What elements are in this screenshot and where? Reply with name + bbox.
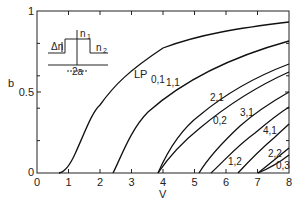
inset-n2-sub: 2 [103, 47, 107, 54]
y-tick-0: 0 [28, 166, 34, 178]
curves [59, 22, 289, 173]
inset-width: 2a [72, 66, 84, 77]
chart: 0 1 2 3 4 5 6 7 8 0 0.5 1 b V LP 0,1 1,1… [0, 0, 297, 200]
curve-lp01 [59, 22, 289, 173]
label-lp12: 1,2 [228, 156, 242, 167]
label-lp02: 0,2 [213, 115, 227, 126]
x-tick-2: 2 [97, 176, 103, 188]
inset-n1-sub: 1 [87, 33, 91, 40]
x-axis-label: V [159, 188, 167, 200]
y-tick-1: 1 [28, 5, 34, 17]
x-tick-6: 6 [223, 176, 229, 188]
x-tick-3: 3 [128, 176, 134, 188]
label-lp21: 2,1 [210, 92, 224, 103]
y-tick-0-5: 0.5 [19, 86, 34, 98]
inset-n1: n [80, 28, 86, 39]
inset-delta-n: Δn [51, 41, 63, 52]
x-tick-5: 5 [191, 176, 197, 188]
label-lp01-sub: 0,1 [151, 74, 165, 85]
x-tick-4: 4 [160, 176, 166, 188]
curve-lp11 [113, 41, 289, 173]
label-lp31: 3,1 [240, 107, 254, 118]
y-axis-label: b [8, 77, 14, 89]
x-tick-8: 8 [286, 176, 292, 188]
x-tick-7: 7 [254, 176, 260, 188]
x-tick-1: 1 [65, 176, 71, 188]
label-lp22: 2,2 [268, 148, 282, 159]
inset-n2: n [96, 42, 102, 53]
label-lp41: 4,1 [263, 125, 277, 136]
label-lp03: 0,3 [276, 160, 290, 171]
label-lp01: LP [134, 68, 147, 80]
x-tick-0: 0 [34, 176, 40, 188]
label-lp11: 1,1 [166, 77, 180, 88]
